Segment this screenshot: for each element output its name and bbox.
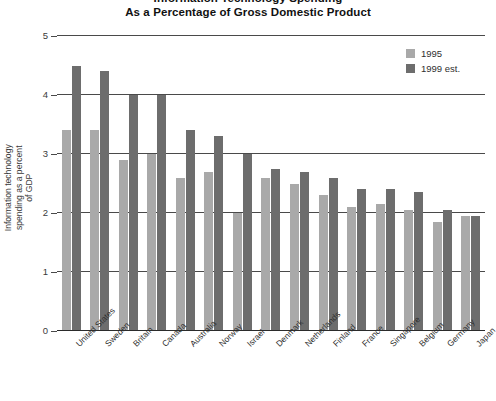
x-axis-label-cell: Japan: [456, 333, 485, 401]
x-axis-label-cell: Germany: [428, 333, 457, 401]
bar-group: [371, 36, 400, 331]
x-axis-label-cell: Netherlands: [285, 333, 314, 401]
bar: [414, 192, 423, 331]
bar: [357, 189, 366, 331]
bar: [100, 71, 109, 331]
y-tick-mark-0: [51, 331, 57, 332]
bar: [290, 184, 299, 332]
bar: [433, 222, 442, 331]
y-tick-label-5: 5: [26, 30, 48, 41]
y-tick-label-3: 3: [26, 148, 48, 159]
y-tick-label-2: 2: [26, 207, 48, 218]
y-tick-mark-1: [51, 272, 57, 273]
y-tick-mark-2: [51, 213, 57, 214]
y-tick-mark-3: [51, 154, 57, 155]
plot-area: [57, 36, 485, 331]
bar: [129, 95, 138, 331]
bar-group: [257, 36, 286, 331]
x-axis-label-cell: United States: [57, 333, 86, 401]
bar: [62, 130, 71, 331]
bar-group: [428, 36, 457, 331]
bar-group: [456, 36, 485, 331]
bar: [461, 216, 470, 331]
bar-group: [200, 36, 229, 331]
y-tick-label-0: 0: [26, 325, 48, 336]
bar: [147, 154, 156, 331]
bar: [404, 210, 413, 331]
bar-group: [57, 36, 86, 331]
chart-container: Information Technology Spending As a Per…: [0, 0, 496, 401]
bar: [386, 189, 395, 331]
bar: [471, 216, 480, 331]
bar: [300, 172, 309, 331]
bar-group: [228, 36, 257, 331]
x-axis-label-cell: Belgium: [399, 333, 428, 401]
bar-series-group: [57, 36, 485, 331]
bar-group: [285, 36, 314, 331]
y-tick-label-4: 4: [26, 89, 48, 100]
x-axis-label-cell: Australia: [171, 333, 200, 401]
y-axis-title: Information technology spending as a per…: [6, 120, 32, 250]
x-axis-label-cell: Denmark: [257, 333, 286, 401]
bar-group: [143, 36, 172, 331]
x-axis-label-cell: Finland: [314, 333, 343, 401]
bar-group: [342, 36, 371, 331]
x-axis-label-cell: Canada: [143, 333, 172, 401]
x-axis-label-cell: France: [342, 333, 371, 401]
bar: [119, 160, 128, 331]
bar: [186, 130, 195, 331]
bar: [319, 195, 328, 331]
x-axis-label-cell: Singapore: [371, 333, 400, 401]
bar: [90, 130, 99, 331]
bar: [443, 210, 452, 331]
bar: [261, 178, 270, 331]
bar: [271, 169, 280, 331]
x-axis-label-cell: Israel: [228, 333, 257, 401]
bar-group: [399, 36, 428, 331]
x-axis-label-cell: Sweden: [86, 333, 115, 401]
bar: [176, 178, 185, 331]
x-axis-label-cell: Britain: [114, 333, 143, 401]
y-tick-mark-5: [51, 36, 57, 37]
bar: [347, 207, 356, 331]
bar: [243, 154, 252, 331]
bar-group: [114, 36, 143, 331]
chart-title: Information Technology Spending As a Per…: [0, 0, 496, 19]
x-axis-labels: United StatesSwedenBritainCanadaAustrali…: [57, 333, 485, 401]
bar-group: [171, 36, 200, 331]
bar: [72, 66, 81, 332]
y-axis-title-text: Information technology spending as a per…: [3, 123, 35, 253]
chart-title-line-2: As a Percentage of Gross Domestic Produc…: [0, 5, 496, 19]
bar: [329, 178, 338, 331]
bar: [204, 172, 213, 331]
y-tick-mark-4: [51, 95, 57, 96]
bar: [233, 213, 242, 331]
y-tick-label-1: 1: [26, 266, 48, 277]
bar-group: [314, 36, 343, 331]
bar: [157, 95, 166, 331]
bar-group: [86, 36, 115, 331]
bar: [376, 204, 385, 331]
x-axis-label-cell: Norway: [200, 333, 229, 401]
bar: [214, 136, 223, 331]
